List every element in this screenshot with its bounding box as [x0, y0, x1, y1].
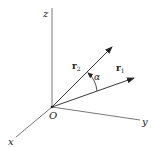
- r2-label: r2: [72, 61, 81, 72]
- x-axis-label: x: [8, 136, 14, 147]
- y-axis-label: y: [141, 116, 148, 127]
- y-axis: [52, 107, 140, 120]
- origin-label: O: [49, 110, 57, 121]
- vector-r1: [52, 78, 134, 107]
- origin-point: [51, 106, 54, 109]
- angle-alpha-label: α: [94, 72, 100, 82]
- vector-r2: [52, 47, 112, 107]
- x-axis: [16, 107, 52, 137]
- r1-label: r1: [116, 63, 125, 74]
- z-axis-label: z: [42, 8, 49, 19]
- coordinate-diagram: z y x O r2 r1 α: [0, 0, 158, 148]
